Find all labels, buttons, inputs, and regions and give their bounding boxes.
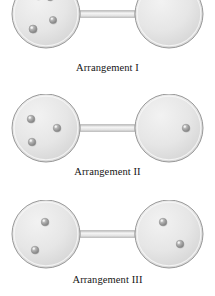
gas-particle-left-2 xyxy=(53,124,61,132)
apparatus-drawing xyxy=(0,200,215,280)
connecting-tube xyxy=(80,11,135,17)
particle-highlight xyxy=(178,242,180,244)
gas-particle-left-4 xyxy=(29,25,37,33)
apparatus-drawing xyxy=(0,94,215,174)
left-bulb xyxy=(12,94,80,162)
apparatus-3 xyxy=(0,200,215,274)
particle-highlight xyxy=(43,220,45,222)
particle-highlight xyxy=(184,126,186,128)
particle-highlight xyxy=(33,248,35,250)
gas-particle-right-1 xyxy=(159,218,167,226)
gas-particle-left-3 xyxy=(49,16,56,23)
gas-particle-right-2 xyxy=(176,240,184,248)
particle-highlight xyxy=(31,26,33,28)
gas-particle-left-2 xyxy=(31,246,39,254)
left-bulb xyxy=(12,200,80,268)
particle-highlight xyxy=(29,117,31,119)
right-bulb xyxy=(135,0,203,48)
arrangement-caption: Arrangement II xyxy=(0,166,215,177)
gas-arrangements-figure: Arrangement IArrangement IIArrangement I… xyxy=(0,0,215,296)
gas-particle-left-1 xyxy=(27,115,35,123)
particle-highlight xyxy=(161,220,163,222)
apparatus-1 xyxy=(0,0,215,66)
apparatus-2 xyxy=(0,94,215,168)
particle-highlight xyxy=(55,126,57,128)
particle-highlight xyxy=(30,140,32,142)
arrangement-caption: Arrangement I xyxy=(0,62,215,73)
gas-particle-right-1 xyxy=(182,124,190,132)
right-bulb xyxy=(135,200,203,268)
connecting-tube xyxy=(80,231,135,237)
gas-particle-left-1 xyxy=(41,218,49,226)
left-bulb xyxy=(12,0,80,48)
right-bulb xyxy=(135,94,203,162)
particle-highlight xyxy=(51,18,53,20)
connecting-tube xyxy=(80,125,135,131)
gas-particle-left-3 xyxy=(28,138,36,146)
arrangement-caption: Arrangement III xyxy=(0,274,215,285)
